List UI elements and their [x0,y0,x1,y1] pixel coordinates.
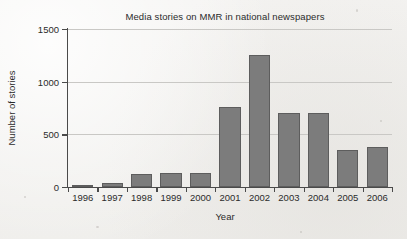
x-tick-mark [333,188,334,192]
x-tick-mark [245,188,246,192]
y-tick-label: 0 [54,182,59,193]
x-tick-label-1999: 1999 [161,192,182,203]
y-tick-label: 500 [43,129,59,140]
x-tick-mark [156,188,157,192]
x-tick-label-2006: 2006 [367,192,388,203]
bar-1997 [102,183,123,187]
bar-2003 [278,113,299,187]
x-tick-mark [186,188,187,192]
bar-2000 [190,173,211,187]
x-tick-label-1998: 1998 [131,192,152,203]
bar-2005 [337,150,358,187]
y-axis-label: Number of stories [6,71,17,146]
plot-area [68,29,392,187]
x-tick-mark [392,188,393,192]
x-tick-mark [68,188,69,192]
bar-2006 [367,147,388,187]
y-tick-label: 1000 [38,76,59,87]
bar-2002 [249,55,270,187]
x-tick-label-2001: 2001 [219,192,240,203]
chart-title: Media stories on MMR in national newspap… [60,11,390,22]
bar-1998 [131,174,152,187]
y-tick-mark [62,29,67,30]
x-tick-mark [304,188,305,192]
bar-chart: Media stories on MMR in national newspap… [0,0,407,239]
bar-1999 [160,173,181,187]
x-tick-label-2000: 2000 [190,192,211,203]
x-tick-label-2002: 2002 [249,192,270,203]
x-tick-mark [97,188,98,192]
x-tick-label-2005: 2005 [337,192,358,203]
bar-2001 [219,107,240,187]
x-tick-label-2004: 2004 [308,192,329,203]
x-tick-label-1997: 1997 [102,192,123,203]
x-tick-mark [215,188,216,192]
x-tick-label-1996: 1996 [72,192,93,203]
x-axis-line [67,187,393,188]
x-axis-label: Year [60,211,390,222]
x-tick-mark [363,188,364,192]
x-tick-mark [127,188,128,192]
y-tick-mark [62,82,67,83]
x-tick-label-2003: 2003 [278,192,299,203]
bar-1996 [72,185,93,187]
x-tick-mark [274,188,275,192]
y-tick-mark [62,187,67,188]
y-tick-mark [62,134,67,135]
y-tick-label: 1500 [38,24,59,35]
bar-2004 [308,113,329,187]
